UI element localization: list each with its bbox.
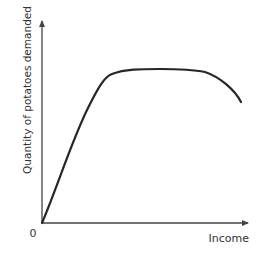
demand-curve: [42, 69, 241, 223]
origin-label: 0: [30, 227, 37, 240]
x-axis-label: Income: [209, 232, 250, 245]
y-axis-label: Quantity of potatoes demanded: [21, 6, 33, 174]
chart: Quantity of potatoes demanded Income 0: [0, 0, 265, 257]
